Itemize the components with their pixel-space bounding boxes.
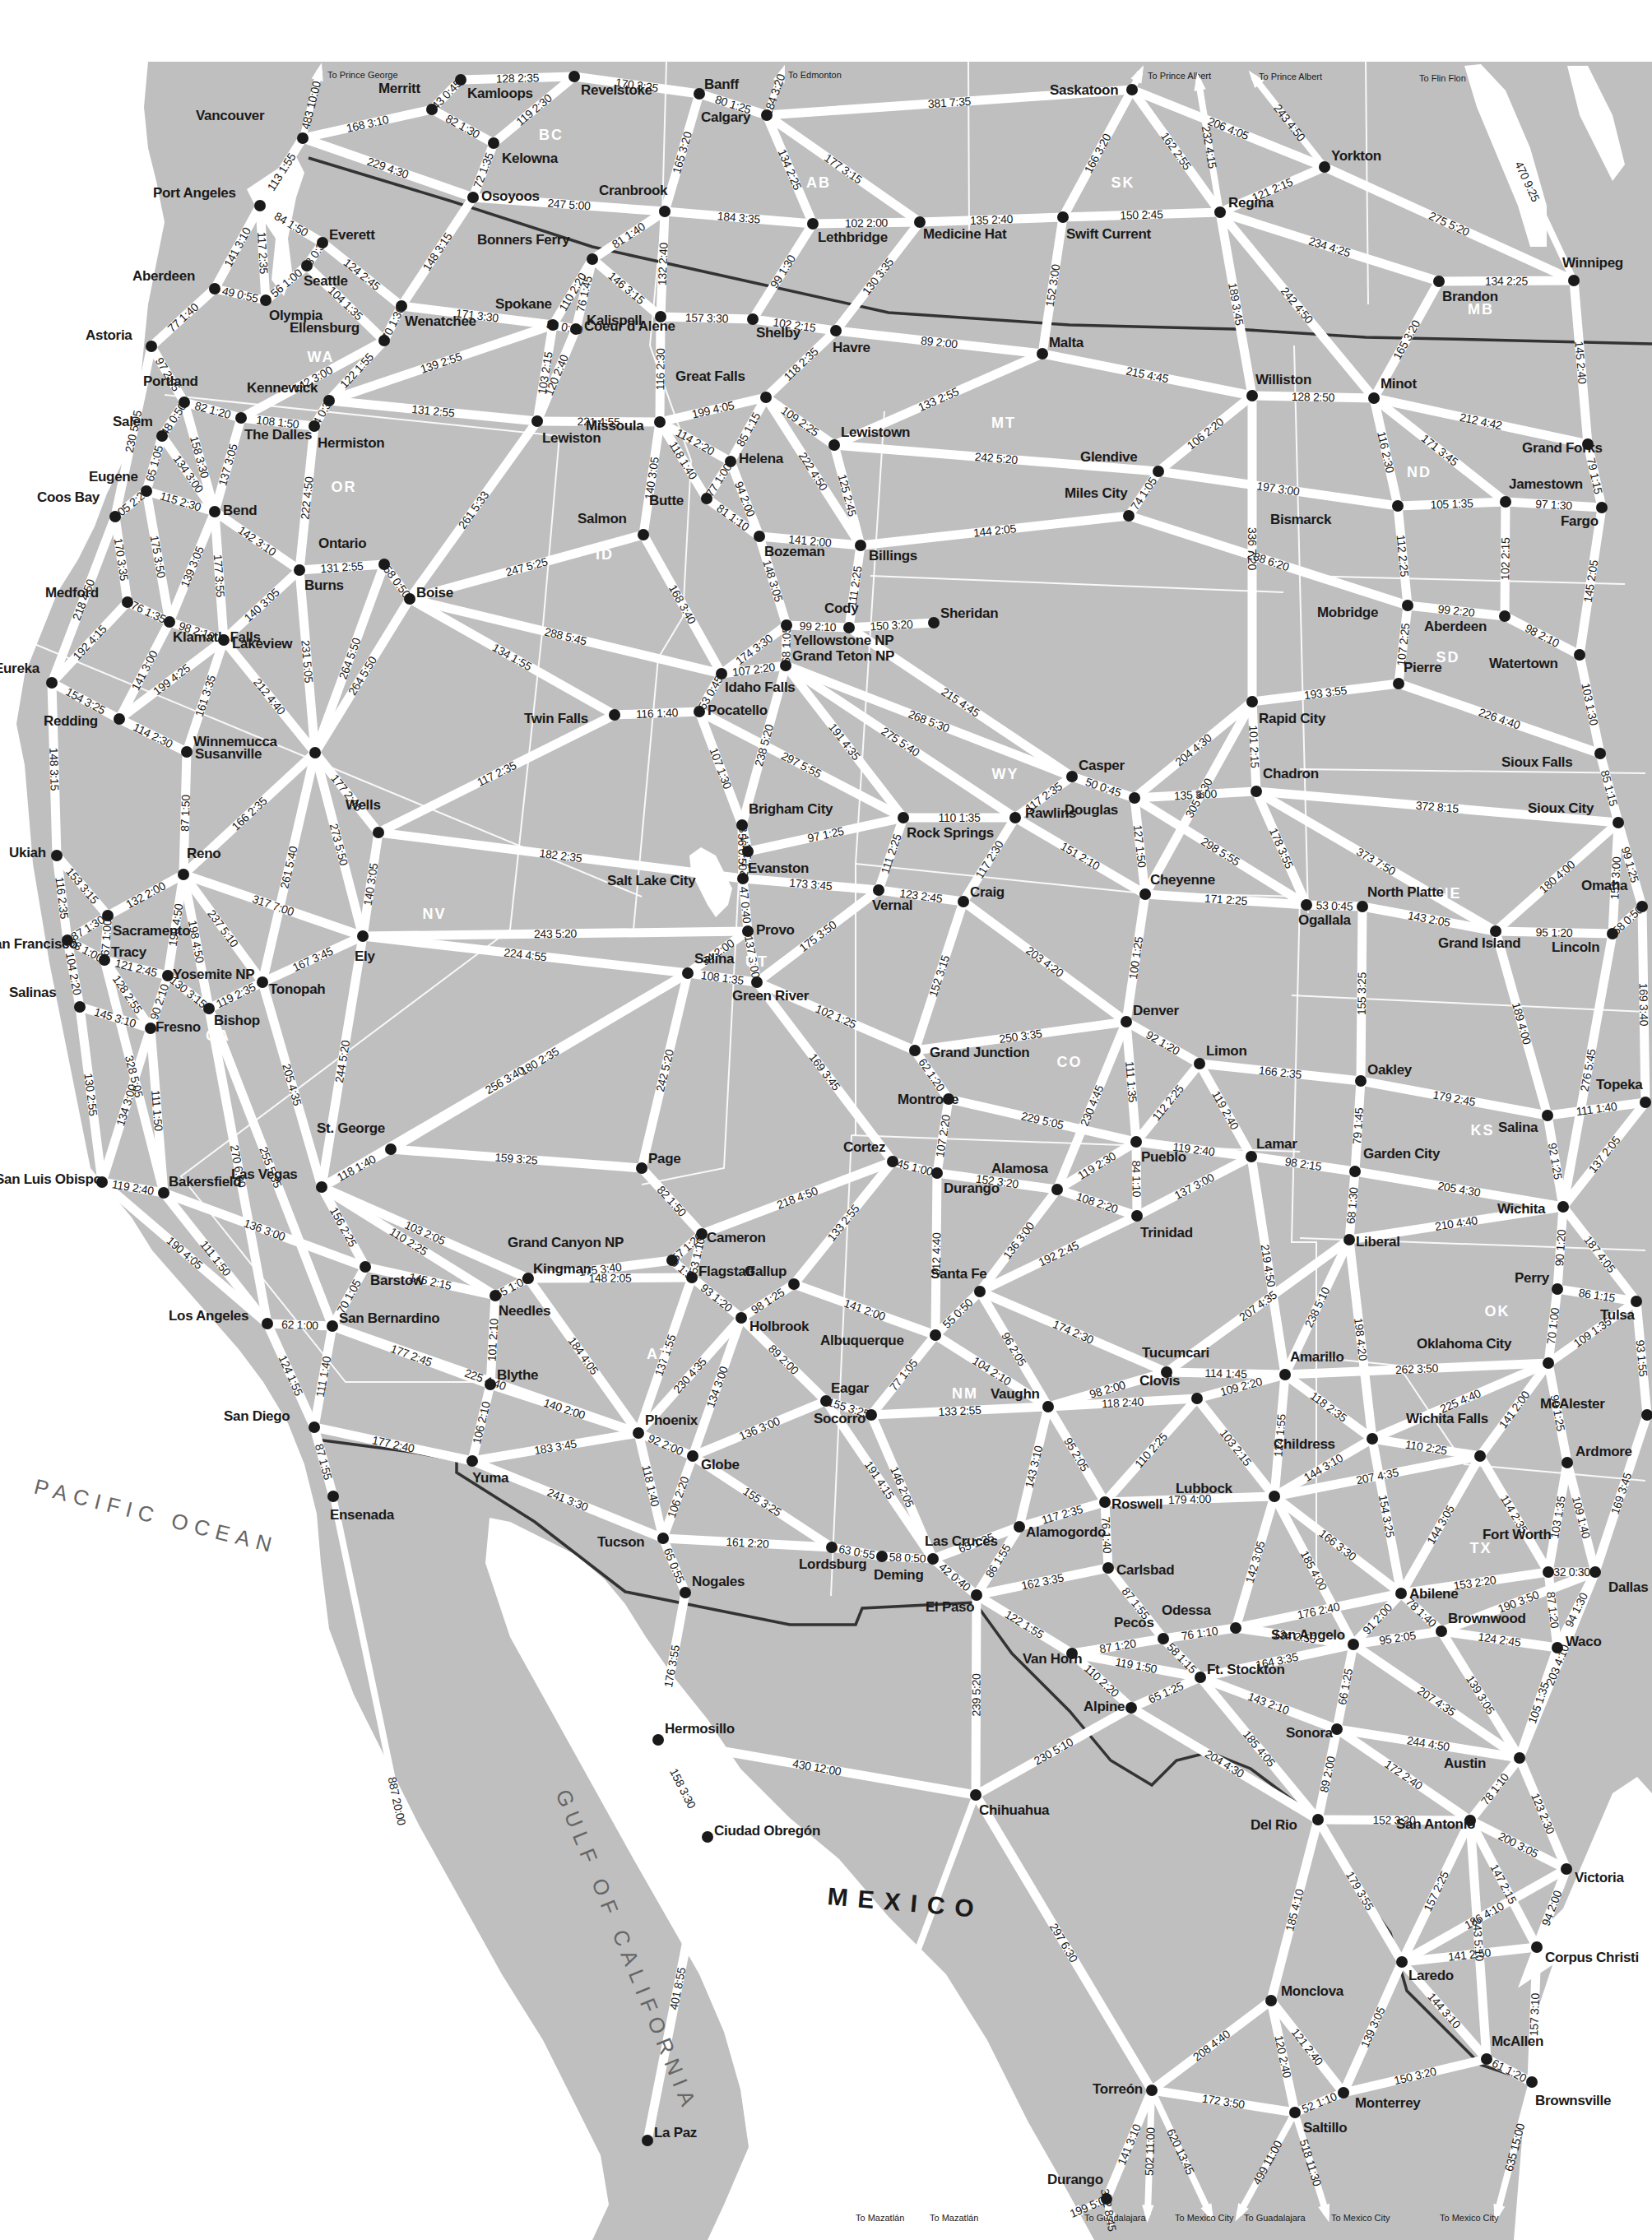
city-marker-icon[interactable] [638, 529, 649, 540]
city-marker-icon[interactable] [396, 300, 407, 312]
city-marker-icon[interactable] [1343, 1234, 1355, 1245]
city-marker-icon[interactable] [102, 910, 114, 921]
city-marker-icon[interactable] [781, 619, 792, 631]
city-marker-icon[interactable] [701, 493, 712, 504]
city-marker-icon[interactable] [466, 1455, 478, 1467]
city-marker-icon[interactable] [1251, 786, 1262, 797]
city-marker-icon[interactable] [309, 420, 320, 432]
city-marker-icon[interactable] [1265, 1995, 1277, 2006]
city-marker-icon[interactable] [490, 1290, 501, 1301]
city-marker-icon[interactable] [826, 1542, 838, 1553]
city-marker-icon[interactable] [687, 1450, 698, 1462]
city-marker-icon[interactable] [426, 104, 438, 115]
city-marker-icon[interactable] [46, 677, 58, 689]
city-marker-icon[interactable] [736, 819, 748, 831]
city-marker-icon[interactable] [1368, 392, 1380, 404]
city-marker-icon[interactable] [1195, 1672, 1206, 1683]
city-marker-icon[interactable] [873, 884, 884, 896]
city-marker-icon[interactable] [1129, 792, 1140, 804]
city-marker-icon[interactable] [1214, 206, 1226, 218]
city-san_antonio[interactable]: San Antonio [1396, 1815, 1476, 1832]
city-marker-icon[interactable] [323, 395, 335, 406]
city-marker-icon[interactable] [1500, 496, 1511, 508]
city-marker-icon[interactable] [1191, 1393, 1203, 1404]
city-marker-icon[interactable] [865, 1409, 877, 1421]
city-marker-icon[interactable] [1594, 748, 1606, 759]
city-marker-icon[interactable] [164, 616, 175, 628]
city-marker-icon[interactable] [1338, 2087, 1349, 2099]
city-marker-icon[interactable] [1640, 1097, 1651, 1108]
city-marker-icon[interactable] [235, 412, 247, 424]
city-marker-icon[interactable] [1514, 1752, 1525, 1764]
city-marker-icon[interactable] [1589, 1566, 1601, 1578]
city-marker-icon[interactable] [301, 260, 313, 271]
city-marker-icon[interactable] [609, 709, 620, 721]
city-marker-icon[interactable] [930, 1329, 941, 1341]
city-marker-icon[interactable] [1102, 1562, 1114, 1574]
city-marker-icon[interactable] [1042, 1401, 1054, 1412]
city-marker-icon[interactable] [181, 746, 193, 758]
city-marker-icon[interactable] [1246, 1151, 1257, 1162]
city-marker-icon[interactable] [1139, 888, 1151, 900]
city-marker-icon[interactable] [1153, 466, 1164, 477]
city-marker-icon[interactable] [716, 668, 727, 679]
city-marker-icon[interactable] [694, 88, 705, 100]
city-marker-icon[interactable] [404, 593, 415, 605]
city-marker-icon[interactable] [74, 1001, 86, 1013]
city-marker-icon[interactable] [788, 1278, 800, 1290]
city-marker-icon[interactable] [1357, 901, 1368, 912]
city-marker-icon[interactable] [657, 1533, 669, 1544]
city-marker-icon[interactable] [1543, 1357, 1554, 1369]
city-marker-icon[interactable] [682, 967, 694, 979]
city-marker-icon[interactable] [114, 713, 125, 725]
city-marker-icon[interactable] [1057, 211, 1069, 223]
city-marker-icon[interactable] [828, 439, 840, 451]
city-marker-icon[interactable] [1319, 161, 1330, 173]
city-marker-icon[interactable] [570, 323, 582, 335]
city-marker-icon[interactable] [488, 137, 499, 149]
city-marker-icon[interactable] [680, 1587, 691, 1598]
city-marker-icon[interactable] [970, 1789, 981, 1801]
city-marker-icon[interactable] [1552, 1642, 1563, 1653]
city-marker-icon[interactable] [568, 71, 580, 82]
city-marker-icon[interactable] [122, 596, 133, 608]
city-marker-icon[interactable] [257, 976, 268, 988]
city-marker-icon[interactable] [327, 1320, 338, 1332]
city-marker-icon[interactable] [1392, 500, 1404, 512]
city-marker-icon[interactable] [1101, 2193, 1112, 2205]
city-marker-icon[interactable] [316, 1181, 327, 1193]
city-marker-icon[interactable] [1037, 348, 1048, 359]
city-marker-icon[interactable] [666, 1254, 678, 1266]
city-marker-icon[interactable] [587, 253, 598, 265]
city-marker-icon[interactable] [1607, 928, 1618, 939]
city-marker-icon[interactable] [1194, 1058, 1205, 1069]
city-marker-icon[interactable] [455, 74, 466, 86]
city-marker-icon[interactable] [1301, 899, 1312, 911]
city-marker-icon[interactable] [1312, 1814, 1324, 1825]
city-cameron[interactable]: Cameron [696, 1228, 766, 1245]
city-marker-icon[interactable] [974, 1286, 986, 1297]
city-marker-icon[interactable] [1009, 812, 1021, 823]
city-marker-icon[interactable] [203, 1003, 215, 1014]
city-marker-icon[interactable] [1279, 1369, 1291, 1380]
city-marker-icon[interactable] [1596, 502, 1608, 513]
city-marker-icon[interactable] [1562, 1457, 1573, 1468]
city-marker-icon[interactable] [262, 1318, 273, 1329]
city-marker-icon[interactable] [742, 925, 754, 937]
city-san_francisco[interactable]: San Francisco [0, 934, 77, 952]
city-marker-icon[interactable] [218, 634, 230, 646]
city-marker-icon[interactable] [958, 896, 969, 907]
city-marker-icon[interactable] [1557, 1201, 1569, 1213]
city-marker-icon[interactable] [294, 564, 305, 576]
city-marker-icon[interactable] [1348, 1639, 1359, 1650]
city-marker-icon[interactable] [1269, 1491, 1280, 1502]
city-marker-icon[interactable] [357, 930, 369, 942]
city-marker-icon[interactable] [141, 485, 152, 497]
city-marker-icon[interactable] [1246, 390, 1258, 401]
city-yosemite[interactable]: Yosemite NP [162, 967, 254, 982]
city-marker-icon[interactable] [1066, 771, 1078, 782]
city-marker-icon[interactable] [694, 706, 705, 717]
city-marker-icon[interactable] [737, 873, 749, 884]
city-marker-icon[interactable] [467, 192, 479, 203]
city-marker-icon[interactable] [385, 1143, 397, 1155]
